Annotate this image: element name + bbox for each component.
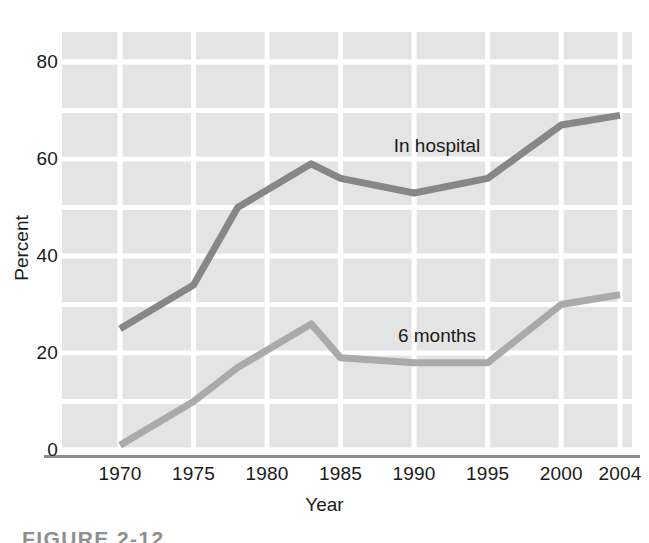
figure-root: 020406080 197019751980198519901995200020… [0, 0, 649, 543]
gridline-horizontal [62, 157, 632, 162]
y-tick-label: 60 [2, 149, 58, 168]
gridlines [62, 32, 632, 452]
plot-area [62, 32, 632, 452]
gridline-horizontal [62, 448, 632, 453]
series-label-in-hospital: In hospital [394, 135, 481, 156]
y-axis-title: Percent [12, 198, 32, 298]
y-tick-label: 80 [2, 52, 58, 71]
gridline-vertical [265, 32, 270, 452]
gridline-vertical [485, 32, 490, 452]
y-tick-label: 0 [2, 440, 58, 459]
y-tick-label: 20 [2, 343, 58, 362]
gridline-vertical [412, 32, 417, 452]
gridline-horizontal [62, 254, 632, 259]
x-tick-label: 1970 [98, 463, 141, 484]
gridline-horizontal [62, 302, 632, 307]
gridline-horizontal [62, 205, 632, 210]
gridline-vertical [191, 32, 196, 452]
gridline-vertical [118, 32, 123, 452]
gridline-horizontal [62, 108, 632, 113]
gridline-horizontal [62, 351, 632, 356]
x-tick-label: 1985 [319, 463, 362, 484]
gridline-horizontal [62, 399, 632, 404]
plot-svg [62, 32, 632, 452]
gridline-horizontal [62, 60, 632, 65]
x-axis-line [44, 455, 640, 458]
x-tick-label: 1990 [393, 463, 436, 484]
x-tick-label: 1995 [466, 463, 509, 484]
gridline-vertical [559, 32, 564, 452]
x-tick-label: 2004 [598, 463, 641, 484]
gridline-vertical [338, 32, 343, 452]
series-label-6-months: 6 months [398, 325, 476, 346]
x-tick-label: 1975 [172, 463, 215, 484]
x-tick-label: 2000 [540, 463, 583, 484]
x-tick-label: 1980 [246, 463, 289, 484]
gridline-vertical [618, 32, 623, 452]
figure-caption: FIGURE 2-12 [22, 528, 165, 543]
x-axis-title: Year [0, 494, 649, 515]
